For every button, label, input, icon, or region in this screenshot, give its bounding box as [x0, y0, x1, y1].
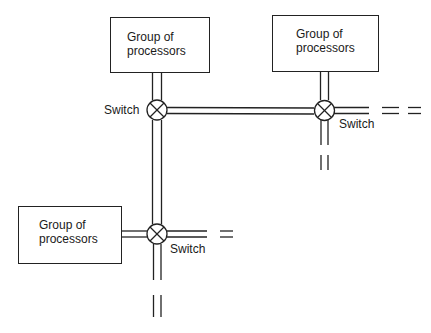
processor-group-bottom-left: Group of processors: [18, 206, 122, 264]
switch-icon: [315, 101, 335, 121]
link-switch-top-left-to-switch-bottom: [153, 120, 162, 224]
switch-label-bottom: Switch: [170, 242, 205, 256]
label-line-2: processors: [127, 44, 186, 58]
link-group-top-right-to-switch: [321, 71, 329, 100]
label-line-2: processors: [296, 41, 355, 55]
link-switch-top-right-continues-down: [321, 120, 328, 170]
link-switch-bottom-continues-down: [154, 244, 162, 317]
processor-group-label: Group of processors: [39, 218, 98, 246]
processor-group-top-right: Group of processors: [272, 15, 379, 72]
switch-icon: [147, 224, 167, 244]
label-line-2: processors: [39, 232, 98, 246]
processor-group-label: Group of processors: [127, 30, 186, 58]
switch-icon: [147, 100, 167, 120]
link-switch-top-left-to-switch-top-right: [167, 108, 314, 115]
switch-label-top-right: Switch: [339, 117, 374, 131]
label-line-1: Group of: [39, 218, 98, 232]
link-switch-bottom-continues-right: [167, 231, 233, 237]
link-group-bottom-left-to-switch: [121, 231, 147, 237]
label-line-1: Group of: [127, 30, 186, 44]
processor-group-label: Group of processors: [296, 27, 355, 55]
processor-group-top-left: Group of processors: [110, 17, 210, 73]
switch-label-top-left: Switch: [104, 103, 139, 117]
link-group-top-left-to-switch: [153, 72, 162, 100]
link-switch-top-right-continues-right: [334, 108, 421, 114]
label-line-1: Group of: [296, 27, 355, 41]
